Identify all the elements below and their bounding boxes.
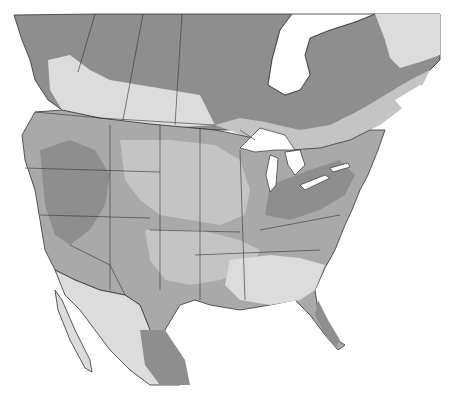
north-america-map — [0, 0, 453, 393]
